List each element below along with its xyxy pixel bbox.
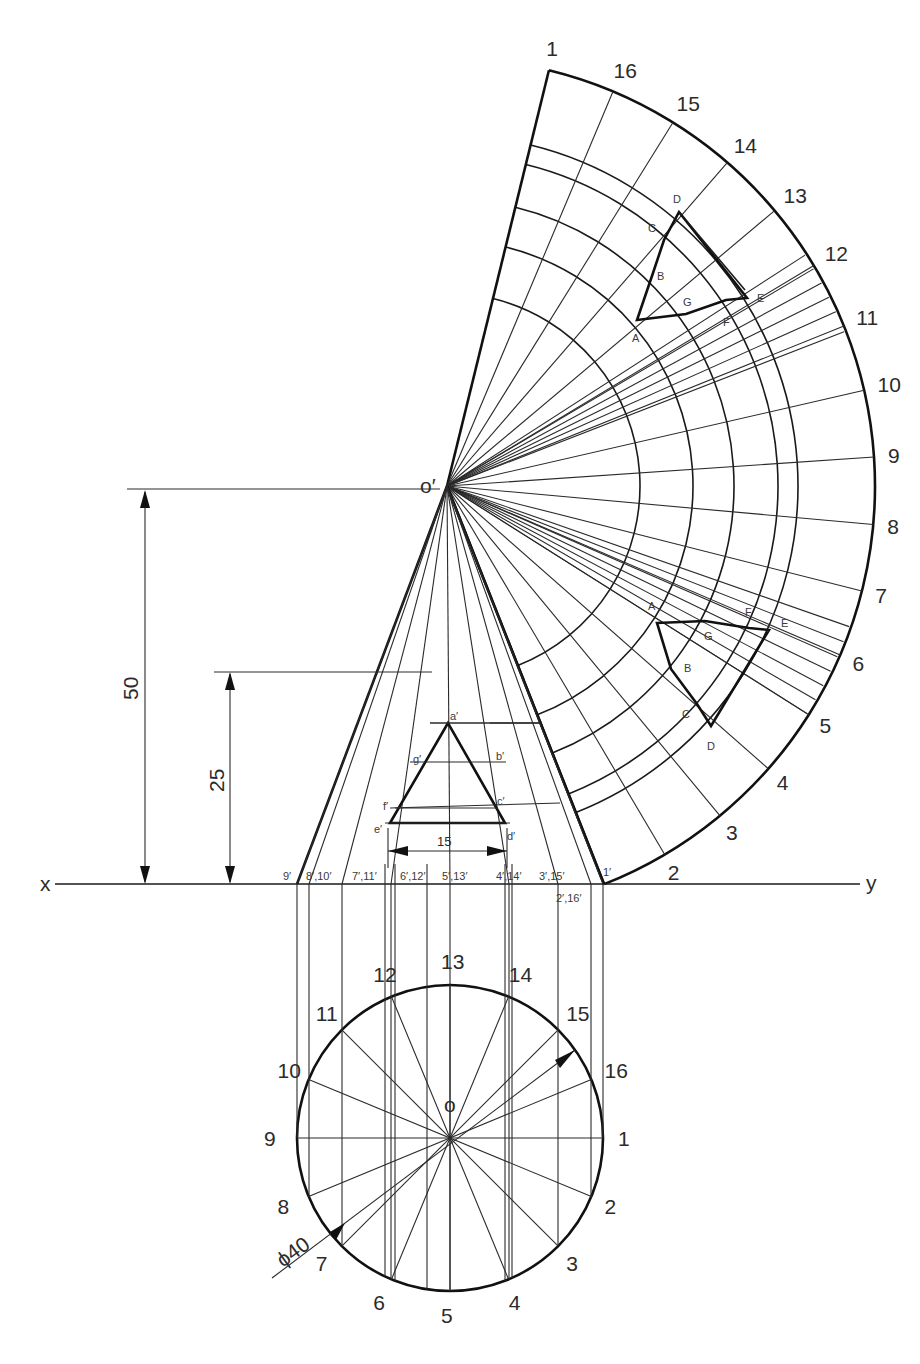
development-generator-line — [447, 122, 673, 486]
plan-generator-label: 6 — [373, 1291, 385, 1314]
height-dimension-label: 50 — [119, 677, 142, 700]
development-arc — [515, 207, 734, 753]
development-arc — [526, 165, 778, 794]
elevation-triangle-label: f′ — [383, 800, 388, 812]
development-generator-line — [447, 163, 727, 486]
development-generator-line — [447, 486, 768, 769]
development-generator-line — [447, 326, 844, 486]
upper-cut-label-F: F — [723, 316, 730, 328]
elevation-triangle-label: c′ — [497, 795, 505, 807]
development-generator-label: 10 — [878, 373, 901, 396]
apex-label: o′ — [420, 474, 436, 497]
triangle-width-label: 15 — [437, 834, 451, 849]
y-label: y — [866, 871, 877, 894]
elevation-triangle-label: a′ — [450, 710, 458, 722]
elevation-triangle-label: e′ — [374, 823, 382, 835]
plan-generator-label: 8 — [277, 1195, 289, 1218]
lower-cut-label-G: G — [704, 630, 713, 642]
elevation-triangle-label: d′ — [507, 830, 515, 842]
plan-generator-label: 3 — [566, 1252, 578, 1275]
arrowhead-icon — [225, 866, 235, 884]
upper-cut-label-A: A — [632, 332, 640, 344]
upper-cut-label-C: C — [648, 222, 656, 234]
development-generator-label: 16 — [614, 59, 637, 82]
construction-line — [447, 486, 823, 686]
lower-cut-label-F: F — [745, 606, 752, 618]
labels: 11615141312111098765432ABCDEFGABCDEFGxya… — [40, 37, 901, 1327]
lower-cut-label-C: C — [682, 708, 690, 720]
upper-cut-label-B: B — [657, 270, 664, 282]
elevation-triangle-label: g′ — [413, 753, 421, 765]
development-arc — [493, 299, 640, 666]
diameter-dimension-label: ϕ40 — [272, 1232, 314, 1271]
plan-generator-label: 7 — [316, 1252, 328, 1275]
plan-generator-label: 9 — [264, 1127, 276, 1150]
development-edge-top — [447, 70, 549, 486]
section-line — [390, 803, 560, 808]
development-arc — [531, 145, 798, 812]
plan-generator-label: 4 — [509, 1291, 521, 1314]
plan-generator-label: 16 — [605, 1059, 628, 1082]
development-generator-label: 15 — [677, 92, 700, 115]
x-label: x — [40, 872, 51, 895]
front-elevation — [55, 486, 860, 884]
upper-cut-label-D: D — [673, 193, 681, 205]
lower-cut-label-A: A — [648, 600, 656, 612]
plan-generator-label: 15 — [566, 1002, 589, 1025]
arrowhead-icon — [225, 672, 235, 690]
development-generator-label: 1 — [546, 37, 558, 60]
development-generator-label: 7 — [875, 584, 887, 607]
development-generator-line — [447, 486, 720, 816]
plan-generator-label: 14 — [509, 963, 533, 986]
arrowhead-icon — [388, 846, 408, 856]
elevation-base-label: 5′,13′ — [442, 870, 468, 882]
development-generator-label: 13 — [783, 184, 806, 207]
development-generator-label: 9 — [888, 444, 900, 467]
plan-generator-label: 11 — [316, 1002, 338, 1025]
elevation-base-label: 8′,10′ — [306, 870, 332, 882]
plan-generator-label: 12 — [373, 963, 396, 986]
lower-cut-out-outline — [657, 621, 769, 726]
development-generator-label: 11 — [856, 306, 878, 329]
development-generator-line — [447, 486, 873, 525]
elevation-triangle-label: b′ — [496, 750, 504, 762]
plan-generator-label: 2 — [605, 1195, 617, 1218]
development-generator-label: 4 — [777, 771, 789, 794]
lower-cut-label-D: D — [707, 740, 715, 752]
elevation-base-label: 6′,12′ — [400, 870, 426, 882]
development-grid — [447, 70, 875, 884]
development-generator-label: 6 — [852, 652, 864, 675]
construction-line — [447, 283, 821, 486]
arrowhead-icon — [140, 490, 150, 508]
elevation-base-label: 1′ — [603, 866, 611, 878]
lower-cut-label-E: E — [781, 617, 788, 629]
arrowhead-icon — [140, 866, 150, 884]
upper-cut-label-G: G — [683, 296, 692, 308]
plan-generator-label: 5 — [441, 1304, 453, 1327]
development-generator-label: 5 — [819, 714, 831, 737]
elevation-base-label: 3′,15′ — [539, 870, 565, 882]
upper-cut-edge — [679, 212, 745, 290]
elevation-base-label: 9′ — [283, 870, 291, 882]
development-generator-label: 12 — [825, 242, 848, 265]
development-generator-label: 2 — [668, 861, 680, 884]
elevation-base-label: 7′,11′ — [352, 870, 377, 882]
development-outer-arc — [549, 70, 875, 884]
plan-generator-label: 10 — [277, 1059, 300, 1082]
elevation-base-label: 2′,16′ — [556, 892, 582, 904]
plan-generator-label: 13 — [441, 950, 464, 973]
upper-cut-label-E: E — [757, 292, 764, 304]
lower-cut-label-B: B — [684, 662, 691, 674]
development-generator-label: 14 — [734, 134, 758, 157]
diameter-leader-line — [272, 1050, 575, 1278]
section-dimension-label: 25 — [205, 769, 228, 792]
cone-development-drawing: 11615141312111098765432ABCDEFGABCDEFGxya… — [0, 0, 920, 1364]
development-generator-label: 3 — [726, 821, 738, 844]
elevation-base-label: 4′,14′ — [496, 870, 522, 882]
development-generator-label: 8 — [887, 515, 899, 538]
plan-center-label: o — [444, 1093, 456, 1116]
construction-line — [447, 255, 805, 486]
plan-generator-label: 1 — [618, 1127, 630, 1150]
